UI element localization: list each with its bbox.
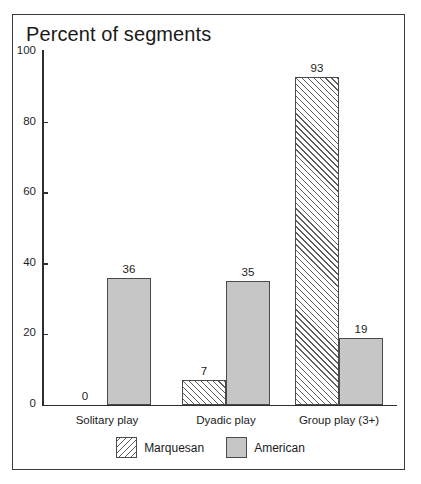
bar-value-label: 7 [182, 365, 226, 377]
legend-entry-marquesan[interactable]: Marquesan [116, 437, 204, 458]
gray-swatch-icon [226, 437, 247, 458]
chart-title: Percent of segments [26, 22, 211, 46]
bar-marquesan-1 [182, 380, 226, 405]
x-category-label-0: Solitary play [47, 414, 167, 426]
y-tick-label: 40 [0, 256, 36, 268]
x-category-label-2: Group play (3+) [279, 414, 399, 426]
y-axis-line [42, 50, 44, 406]
chart-legend: Marquesan American [0, 437, 421, 458]
y-tick-mark [42, 192, 48, 194]
bar-marquesan-2 [295, 77, 339, 405]
bar-value-label: 93 [295, 62, 339, 74]
chart-figure: Percent of segments 020406080100 0367359… [0, 0, 421, 484]
bar-value-label: 0 [63, 390, 107, 402]
y-tick-label: 100 [0, 44, 36, 56]
bar-value-label: 35 [226, 266, 270, 278]
y-tick-label: 20 [0, 326, 36, 338]
y-tick-mark [42, 122, 48, 124]
y-tick-label: 60 [0, 185, 36, 197]
y-tick-label: 80 [0, 115, 36, 127]
y-tick-mark [42, 334, 48, 336]
y-tick-label: 0 [0, 397, 36, 409]
x-category-label-1: Dyadic play [166, 414, 286, 426]
hatch-swatch-icon [116, 437, 137, 458]
bar-american-1 [226, 281, 270, 405]
bar-american-2 [339, 338, 383, 405]
bar-value-label: 36 [107, 263, 151, 275]
legend-label-american: American [254, 441, 305, 455]
bar-value-label: 19 [339, 323, 383, 335]
bar-american-0 [107, 278, 151, 405]
legend-label-marquesan: Marquesan [144, 441, 204, 455]
legend-entry-american[interactable]: American [226, 437, 305, 458]
y-tick-mark [42, 263, 48, 265]
